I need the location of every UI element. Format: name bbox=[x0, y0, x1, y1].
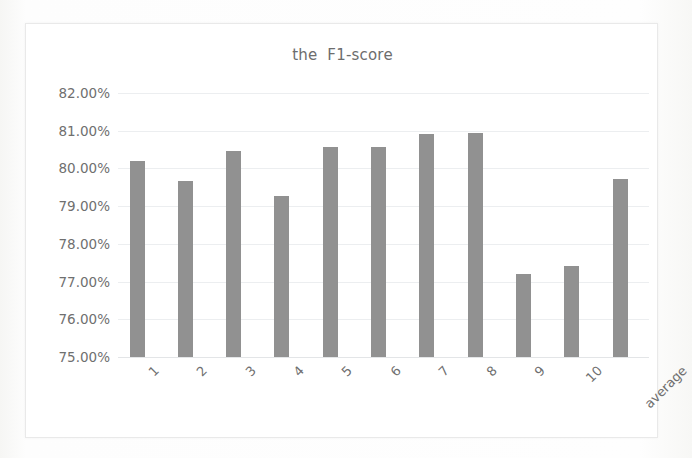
x-tick-label: 6 bbox=[387, 363, 403, 379]
bar[interactable] bbox=[226, 151, 241, 357]
bar[interactable] bbox=[274, 196, 289, 357]
gridline bbox=[118, 357, 649, 358]
y-tick-label: 76.00% bbox=[34, 311, 110, 327]
x-tick-label: 4 bbox=[290, 363, 306, 379]
x-tick-label: 1 bbox=[145, 363, 161, 379]
screenshot-root: the F1-score 82.00%81.00%80.00%79.00%78.… bbox=[0, 0, 692, 458]
chart-frame: the F1-score 82.00%81.00%80.00%79.00%78.… bbox=[25, 23, 658, 438]
bar[interactable] bbox=[468, 133, 483, 357]
x-tick-label: 3 bbox=[242, 363, 258, 379]
chart-title: the F1-score bbox=[26, 46, 659, 64]
bar[interactable] bbox=[178, 181, 193, 357]
y-tick-label: 77.00% bbox=[34, 274, 110, 290]
y-tick-label: 75.00% bbox=[34, 349, 110, 365]
x-tick-label: 9 bbox=[532, 363, 548, 379]
x-tick-label: 5 bbox=[339, 363, 355, 379]
plot-area bbox=[118, 93, 649, 357]
y-tick-label: 80.00% bbox=[34, 160, 110, 176]
y-axis: 82.00%81.00%80.00%79.00%78.00%77.00%76.0… bbox=[34, 93, 110, 357]
x-tick-label: 8 bbox=[484, 363, 500, 379]
y-tick-label: 81.00% bbox=[34, 123, 110, 139]
bar[interactable] bbox=[419, 134, 434, 357]
x-axis: 12345678910average bbox=[118, 363, 649, 433]
gridline bbox=[118, 131, 649, 132]
y-tick-label: 78.00% bbox=[34, 236, 110, 252]
x-tick-label: 10 bbox=[583, 363, 605, 385]
y-tick-label: 79.00% bbox=[34, 198, 110, 214]
y-tick-label: 82.00% bbox=[34, 85, 110, 101]
bar[interactable] bbox=[130, 161, 145, 357]
bar[interactable] bbox=[613, 179, 628, 357]
bar[interactable] bbox=[564, 266, 579, 357]
x-tick-label: 7 bbox=[435, 363, 451, 379]
x-tick-label: 2 bbox=[194, 363, 210, 379]
bar[interactable] bbox=[371, 147, 386, 357]
gridline bbox=[118, 93, 649, 94]
bar[interactable] bbox=[516, 274, 531, 357]
bar[interactable] bbox=[323, 147, 338, 357]
